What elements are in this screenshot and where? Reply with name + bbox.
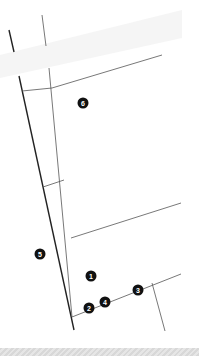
map-marker-1[interactable]: 1 [86, 271, 97, 282]
bottom-bar [0, 348, 199, 356]
map-marker-2[interactable]: 2 [84, 303, 95, 314]
parcel-line [152, 283, 165, 331]
map-marker-4[interactable]: 4 [100, 297, 111, 308]
road-edge-line [19, 76, 74, 330]
parcel-line [49, 68, 72, 317]
parcel-map[interactable]: 6 5 1 2 4 3 [0, 0, 199, 356]
parcel-line [43, 180, 64, 187]
map-marker-3[interactable]: 3 [133, 285, 144, 296]
faded-band [0, 10, 182, 78]
parcel-line [42, 15, 46, 46]
map-marker-5[interactable]: 5 [35, 249, 46, 260]
road-edge-line [9, 30, 14, 52]
parcel-line [71, 203, 181, 238]
map-marker-6[interactable]: 6 [78, 98, 89, 109]
